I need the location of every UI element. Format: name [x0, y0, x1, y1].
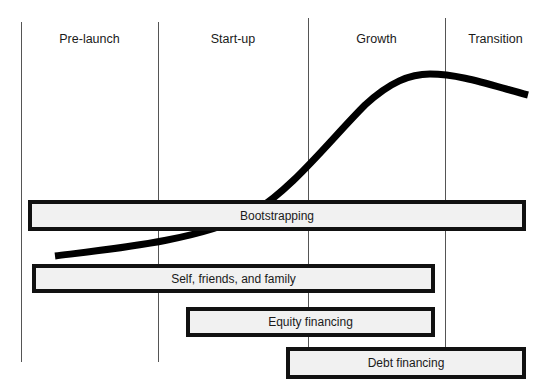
bar-label-self-friends-family: Self, friends, and family [171, 272, 296, 286]
bar-label-bootstrapping: Bootstrapping [240, 209, 314, 223]
bar-label-equity-financing: Equity financing [268, 315, 353, 329]
bar-self-friends-family: Self, friends, and family [32, 264, 435, 293]
bar-label-debt-financing: Debt financing [368, 356, 445, 370]
bar-bootstrapping: Bootstrapping [28, 200, 526, 231]
bar-debt-financing: Debt financing [286, 347, 526, 379]
bar-equity-financing: Equity financing [186, 307, 435, 337]
